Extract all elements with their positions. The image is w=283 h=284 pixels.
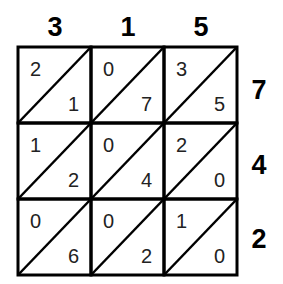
lattice-cell: 1 0 xyxy=(164,199,237,275)
ones-digit: 0 xyxy=(214,170,225,190)
ones-digit: 0 xyxy=(214,246,225,266)
multiplicand-digit: 1 xyxy=(91,14,165,41)
cell-border-diagonal xyxy=(18,47,91,123)
cell-border-diagonal xyxy=(91,47,164,123)
tens-digit: 0 xyxy=(30,211,41,231)
ones-digit: 5 xyxy=(214,94,225,114)
ones-digit: 1 xyxy=(68,94,79,114)
lattice-cell: 2 1 xyxy=(18,47,91,123)
tens-digit: 1 xyxy=(30,135,41,155)
tens-digit: 3 xyxy=(176,59,187,79)
ones-digit: 2 xyxy=(141,246,152,266)
lattice-cell: 0 4 xyxy=(91,123,164,199)
cell-border-diagonal xyxy=(91,199,164,275)
multiplicand-digit: 3 xyxy=(18,14,92,41)
tens-digit: 0 xyxy=(103,59,114,79)
cell-border-diagonal xyxy=(164,123,237,199)
cell-border-diagonal xyxy=(164,199,237,275)
tens-digit: 2 xyxy=(30,59,41,79)
lattice-cell: 0 7 xyxy=(91,47,164,123)
lattice-grid: 2 1 0 7 3 5 1 2 0 4 2 0 xyxy=(18,47,238,274)
multiplicand-digit: 5 xyxy=(164,14,238,41)
lattice-cell: 0 2 xyxy=(91,199,164,275)
multiplier-digit: 2 xyxy=(244,226,274,253)
multiplier-digit: 4 xyxy=(244,152,274,179)
lattice-cell: 0 6 xyxy=(18,199,91,275)
multiplier-digit: 7 xyxy=(244,77,274,104)
ones-digit: 4 xyxy=(141,170,152,190)
tens-digit: 0 xyxy=(103,211,114,231)
tens-digit: 2 xyxy=(176,135,187,155)
ones-digit: 7 xyxy=(141,94,152,114)
ones-digit: 6 xyxy=(68,246,79,266)
ones-digit: 2 xyxy=(68,170,79,190)
cell-border-diagonal xyxy=(18,199,91,275)
cell-border-diagonal xyxy=(91,123,164,199)
tens-digit: 0 xyxy=(103,135,114,155)
cell-border-diagonal xyxy=(18,123,91,199)
tens-digit: 1 xyxy=(176,211,187,231)
lattice-cell: 3 5 xyxy=(164,47,237,123)
cell-border-diagonal xyxy=(164,47,237,123)
lattice-cell: 1 2 xyxy=(18,123,91,199)
lattice-cell: 2 0 xyxy=(164,123,237,199)
